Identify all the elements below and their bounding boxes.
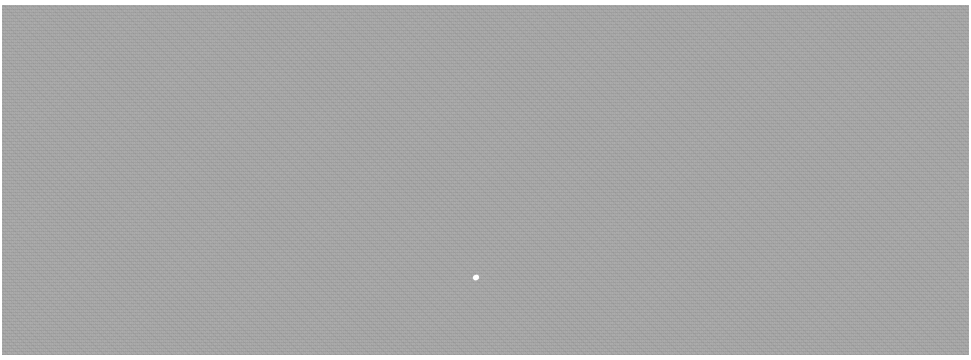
gray-texture-field (2, 5, 969, 355)
image-frame (0, 0, 971, 360)
